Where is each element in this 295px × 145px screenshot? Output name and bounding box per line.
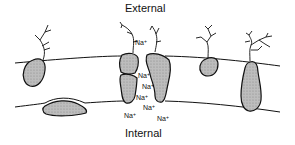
right-large-glycan-icon bbox=[245, 31, 272, 61]
sodium-ion-label: Na+ bbox=[157, 115, 169, 122]
right-small-glycan-icon bbox=[196, 25, 216, 58]
sodium-ion-label: Na+ bbox=[138, 72, 150, 79]
inner-lying-protein bbox=[43, 101, 87, 116]
right-large-protein bbox=[241, 62, 261, 112]
sodium-ion-label: Na+ bbox=[142, 83, 154, 90]
channel-left-lower bbox=[120, 74, 137, 103]
sodium-ion-label: Na+ bbox=[124, 112, 136, 119]
left-glycan-icon bbox=[35, 25, 51, 60]
external-label: External bbox=[125, 3, 165, 14]
channel-left-upper bbox=[120, 53, 139, 74]
left-protein bbox=[23, 59, 45, 86]
sodium-ion-label: Na+ bbox=[143, 104, 155, 111]
internal-label: Internal bbox=[125, 128, 162, 139]
sodium-ion-label: Na+ bbox=[135, 39, 147, 46]
sodium-ion-label: Na+ bbox=[136, 94, 148, 101]
channel-right-glycan-icon bbox=[150, 26, 161, 52]
right-small-protein bbox=[200, 58, 218, 76]
channel-left-glycan-icon bbox=[120, 22, 138, 53]
